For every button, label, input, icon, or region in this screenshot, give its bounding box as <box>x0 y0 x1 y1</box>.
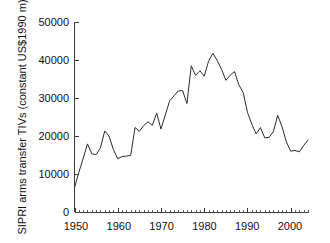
y-tick-label-10000: 10000 <box>38 168 69 180</box>
x-axis-tick-labels: 1950 1960 1970 1980 1990 2000 <box>64 220 302 232</box>
x-tick-label-1990: 1990 <box>235 220 259 232</box>
x-tick-label-2000: 2000 <box>278 220 302 232</box>
line-chart: SIPRI arms transfer TIVs (constant US$19… <box>0 0 330 243</box>
x-tick-label-1980: 1980 <box>192 220 216 232</box>
figure-container: SIPRI arms transfer TIVs (constant US$19… <box>0 0 330 243</box>
x-tick-label-1950: 1950 <box>64 220 88 232</box>
y-axis-title: SIPRI arms transfer TIVs (constant US$19… <box>16 0 28 235</box>
y-tick-label-30000: 30000 <box>38 92 69 104</box>
y-tick-label-0: 0 <box>63 206 69 218</box>
y-tick-label-20000: 20000 <box>38 130 69 142</box>
y-axis-tick-labels: 50000 40000 30000 20000 10000 0 <box>38 16 69 218</box>
x-tick-label-1960: 1960 <box>107 220 131 232</box>
data-series-line <box>75 53 309 188</box>
y-tick-label-50000: 50000 <box>38 16 69 28</box>
x-tick-label-1970: 1970 <box>149 220 173 232</box>
y-tick-label-40000: 40000 <box>38 54 69 66</box>
